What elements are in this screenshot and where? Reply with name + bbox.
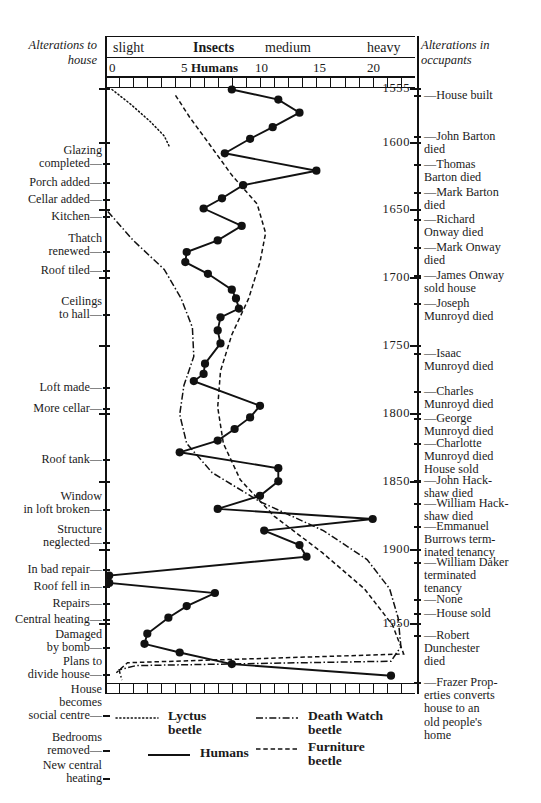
year-tick xyxy=(410,88,421,90)
data-point xyxy=(216,339,224,347)
data-point xyxy=(302,553,310,561)
house-event-1: Porch added— xyxy=(0,176,102,189)
house-event-4: Thatch renewed— xyxy=(0,232,102,258)
house-event-13: Roof fell in— xyxy=(0,580,102,593)
right-tick xyxy=(414,418,421,420)
occupant-event-14: —Emmanuel Burrows term- inated tenancy xyxy=(424,520,541,560)
right-tick xyxy=(414,635,421,637)
left-tick xyxy=(103,163,110,165)
data-point xyxy=(256,492,264,500)
year-tick-left xyxy=(99,549,110,551)
year-tick-left xyxy=(99,345,110,347)
year-tick xyxy=(410,277,421,279)
left-tick xyxy=(103,586,110,588)
year-tick xyxy=(410,142,421,144)
occupant-event-4: —Richard Onway died xyxy=(424,213,541,239)
data-point xyxy=(246,413,254,421)
data-point xyxy=(176,448,184,456)
year-label-1850: 1850 xyxy=(370,475,410,488)
data-point xyxy=(369,515,377,523)
house-event-3: Kitchen— xyxy=(0,210,102,223)
right-tick xyxy=(414,443,421,445)
data-point xyxy=(183,602,191,610)
occupant-event-10: —George Munroyd died xyxy=(424,412,541,438)
legend-label-death: Death Watch beetle xyxy=(308,709,383,738)
occupant-event-0: —House built xyxy=(424,89,541,102)
data-point xyxy=(181,258,189,266)
left-tick xyxy=(103,569,110,571)
right-tick xyxy=(414,95,421,97)
occupant-event-1: —John Barton died xyxy=(424,130,541,156)
left-tick xyxy=(103,674,110,676)
year-tick-left xyxy=(99,209,110,211)
data-point xyxy=(228,85,236,93)
right-tick xyxy=(414,562,421,564)
series-humans xyxy=(109,90,391,676)
year-tick-left xyxy=(99,88,110,90)
data-point xyxy=(256,402,264,410)
year-tick-left xyxy=(99,413,110,415)
house-event-5: Roof tiled— xyxy=(0,264,102,277)
series-lyctus-beetle xyxy=(112,90,170,148)
house-event-8: More cellar— xyxy=(0,402,102,415)
data-point xyxy=(211,589,219,597)
left-tick xyxy=(103,251,110,253)
right-tick xyxy=(414,353,421,355)
occupant-event-9: —Charles Munroyd died xyxy=(424,385,541,411)
data-point xyxy=(274,464,282,472)
left-tick xyxy=(103,459,110,461)
year-tick-left xyxy=(99,623,110,625)
right-tick xyxy=(414,613,421,615)
right-tick xyxy=(414,192,421,194)
data-point xyxy=(214,236,222,244)
house-event-16: Damaged by bomb— xyxy=(0,628,102,654)
house-event-11: Structure neglected— xyxy=(0,523,102,549)
year-tick-left xyxy=(99,481,110,483)
left-tick xyxy=(103,750,110,752)
left-tick xyxy=(103,542,110,544)
left-tick xyxy=(103,216,110,218)
house-event-6: Ceilings to hall— xyxy=(0,295,102,321)
year-label-1600: 1600 xyxy=(370,136,410,149)
year-tick-left xyxy=(99,142,110,144)
occupant-event-7: —Joseph Munroyd died xyxy=(424,297,541,323)
left-tick xyxy=(103,603,110,605)
data-point xyxy=(164,614,172,622)
year-label-1650: 1650 xyxy=(370,203,410,216)
data-point xyxy=(235,305,243,313)
data-point xyxy=(246,135,254,143)
house-event-7: Loft made— xyxy=(0,381,102,394)
data-point xyxy=(176,648,184,656)
left-tick xyxy=(103,270,110,272)
data-point xyxy=(295,541,303,549)
house-event-2: Cellar added— xyxy=(0,193,102,206)
right-tick xyxy=(414,503,421,505)
data-point xyxy=(228,286,236,294)
data-point xyxy=(200,370,208,378)
data-point xyxy=(201,360,209,368)
data-point xyxy=(143,630,151,638)
year-label-1950: 1950 xyxy=(370,617,410,630)
year-tick xyxy=(410,209,421,211)
data-point xyxy=(183,248,191,256)
data-point xyxy=(274,477,282,485)
legend-label-lyctus: Lyctus beetle xyxy=(168,709,206,738)
year-label-1900: 1900 xyxy=(370,543,410,556)
house-event-0: Glazing completed— xyxy=(0,144,102,170)
left-tick xyxy=(103,509,110,511)
right-tick xyxy=(414,136,421,138)
occupant-event-8: —Isaac Munroyd died xyxy=(424,347,541,373)
legend-label-humans: Humans xyxy=(200,746,249,760)
year-tick xyxy=(410,549,421,551)
right-tick xyxy=(414,599,421,601)
data-point xyxy=(190,377,198,385)
occupant-event-3: —Mark Barton died xyxy=(424,186,541,212)
data-point xyxy=(232,294,240,302)
legend-label-furniture: Furniture beetle xyxy=(308,740,365,769)
data-point xyxy=(105,572,113,580)
data-point xyxy=(140,640,148,648)
left-tick xyxy=(103,408,110,410)
right-tick xyxy=(414,391,421,393)
house-event-17: Plans to divide house— xyxy=(0,655,102,681)
left-tick xyxy=(103,182,110,184)
